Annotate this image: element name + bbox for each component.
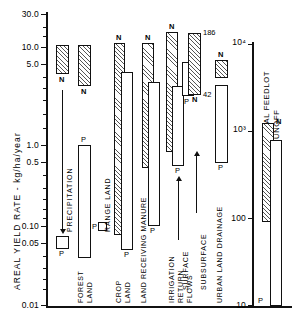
bar-feedlot-p bbox=[270, 140, 282, 306]
cat-label-manure: LAND RECEIVING MANURE bbox=[140, 197, 147, 303]
bar-label-n: N bbox=[81, 87, 86, 96]
axis-minor-tick bbox=[43, 188, 47, 189]
axis-tick bbox=[41, 226, 47, 227]
cat-label-forest-line1: FOREST bbox=[77, 270, 84, 303]
axis-minor-tick bbox=[43, 218, 47, 219]
bar-label-n: N bbox=[169, 22, 174, 31]
bar-label-p: P bbox=[258, 296, 263, 305]
axis-tick bbox=[41, 14, 47, 15]
bar-value-186: 186 bbox=[203, 28, 216, 37]
ytick-right-label: 10 bbox=[222, 300, 246, 310]
bar-precipitation-p bbox=[56, 236, 69, 249]
ytick-right-label: 100 bbox=[222, 213, 246, 223]
y-axis-title: AREAL YIELD RATE - kg/ha/year bbox=[12, 132, 22, 290]
bar-label-n: N bbox=[192, 95, 197, 104]
axis-minor-tick bbox=[43, 88, 47, 89]
bar-manure-p bbox=[148, 82, 160, 226]
axis-minor-tick bbox=[43, 199, 47, 200]
cat-label-irrigation-line1: IRRIGATION bbox=[168, 256, 175, 303]
cat-label-irrigation-line2: RETURN bbox=[177, 270, 184, 303]
precipitation-pointer bbox=[62, 90, 63, 230]
bar-label-p: P bbox=[124, 250, 129, 259]
ytick-right-label: 10⁴ bbox=[222, 37, 246, 47]
right-axis-tick bbox=[248, 305, 254, 306]
cat-label-crop-line2: LAND bbox=[124, 282, 131, 303]
axis-minor-tick bbox=[43, 114, 47, 115]
bar-label-p: P bbox=[59, 249, 64, 258]
figure: 30.0 10.0 5.0 1.0 0.5 0.10 0.05 0.01 ARE… bbox=[0, 0, 292, 325]
bar-label-n: N bbox=[218, 50, 223, 59]
bar-label-n: N bbox=[276, 117, 281, 126]
axis-minor-tick bbox=[43, 268, 47, 269]
ytick-label: 0.01 bbox=[0, 300, 39, 310]
axis-minor-tick bbox=[43, 289, 47, 290]
bar-forest-n bbox=[78, 45, 91, 86]
bar-label-p: P bbox=[175, 166, 180, 175]
bar-label-n: N bbox=[59, 75, 64, 84]
bar-label-p: P bbox=[150, 226, 155, 235]
axis-tick bbox=[41, 64, 47, 65]
bottom-axis-line bbox=[46, 306, 292, 308]
ytick-label: 10.0 bbox=[0, 42, 39, 52]
ytick-label: 5.0 bbox=[0, 59, 39, 69]
bar-label-p: P bbox=[81, 135, 86, 144]
axis-tick bbox=[41, 145, 47, 146]
group-label-rangeland: RANGE LAND bbox=[104, 177, 111, 232]
cat-label-irrigation-line3: FLOWS bbox=[186, 275, 193, 303]
bar-irrigation-subsurface-n bbox=[188, 33, 201, 95]
left-axis-line bbox=[46, 12, 48, 307]
bar-value-42: 42 bbox=[203, 90, 211, 99]
bar-label-n: N bbox=[116, 33, 121, 42]
axis-minor-tick bbox=[43, 27, 47, 28]
bar-label-n: N bbox=[145, 33, 150, 42]
bar-irrigation-surface-p bbox=[172, 86, 184, 166]
axis-minor-tick bbox=[43, 175, 47, 176]
bar-label-p: P bbox=[218, 163, 223, 172]
right-axis-tick bbox=[248, 131, 254, 132]
ytick-label: 30.0 bbox=[0, 9, 39, 19]
right-axis-tick bbox=[248, 218, 254, 219]
axis-minor-tick bbox=[43, 77, 47, 78]
bar-precipitation-n bbox=[56, 45, 69, 74]
group-label-precipitation: PRECIPITATION bbox=[66, 168, 73, 232]
cat-label-crop-line1: CROP bbox=[115, 280, 122, 303]
cat-label-urban: URBAN LAND DRAINAGE bbox=[216, 206, 223, 303]
bar-label-p: P bbox=[184, 97, 189, 106]
bar-urban-n bbox=[215, 60, 228, 78]
bar-cropland-p bbox=[121, 72, 133, 250]
axis-minor-tick bbox=[43, 36, 47, 37]
surface-pointer bbox=[178, 180, 179, 240]
axis-minor-tick bbox=[43, 209, 47, 210]
axis-minor-tick bbox=[43, 128, 47, 129]
axis-tick bbox=[41, 47, 47, 48]
bar-forest-p bbox=[78, 145, 91, 258]
bar-label-p: P bbox=[92, 222, 97, 231]
bar-urban-p bbox=[215, 85, 228, 163]
axis-tick bbox=[41, 162, 47, 163]
cat-label-forest-line2: LAND bbox=[86, 282, 93, 303]
axis-minor-tick bbox=[43, 100, 47, 101]
right-axis-tick bbox=[248, 44, 254, 45]
right-axis-line bbox=[252, 42, 254, 307]
group-label-subsurface: SUBSURFACE bbox=[200, 234, 207, 290]
axis-minor-tick bbox=[43, 256, 47, 257]
axis-tick bbox=[41, 243, 47, 244]
axis-minor-tick bbox=[43, 279, 47, 280]
subsurface-pointer bbox=[196, 155, 197, 213]
